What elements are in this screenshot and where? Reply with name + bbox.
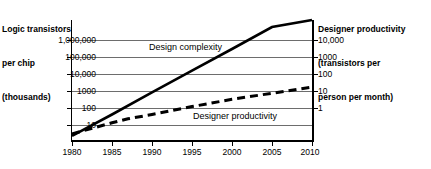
series-label-design-complexity: Design complexity [148,42,223,52]
series-plot [72,20,312,140]
y2-axis-label-100: 100 [318,69,332,79]
x-tick-1985 [112,141,113,146]
y2-axis-label-1000: 1000 [318,52,337,62]
design-productivity-gap-chart: Logic transistors per chip (thousands) D… [0,0,431,169]
y-axis-label-1000000: 1,000,000 [58,35,96,45]
x-tick-2005 [272,141,273,146]
left-axis-title-line-1: Logic transistors [2,24,71,35]
x-axis-label-2000: 2000 [223,147,242,157]
x-axis-label-1985: 1985 [103,147,122,157]
right-axis-title: Designer productivity (transistors per p… [318,2,405,125]
y2-axis-label-10000: 10,000 [318,35,344,45]
x-axis-label-1980: 1980 [63,147,82,157]
x-axis-label-1990: 1990 [143,147,162,157]
left-axis-title-line-2: per chip [2,58,71,69]
left-axis-title-line-3: (thousands) [2,92,71,103]
plot-area: Design complexity Designer productivity [72,20,312,140]
y2-axis-label-1: 1 [318,103,323,113]
y-axis-label-1000: 1000 [77,86,96,96]
x-tick-1980 [72,141,73,146]
right-axis-title-line-3: person per month) [318,92,405,103]
x-axis-label-2010: 2010 [301,147,320,157]
x-axis-label-1995: 1995 [183,147,202,157]
x-axis-label-2005: 2005 [263,147,282,157]
left-axis-title: Logic transistors per chip (thousands) [2,2,71,125]
right-axis-title-line-1: Designer productivity [318,24,405,35]
series-label-designer-productivity: Designer productivity [192,111,278,121]
x-tick-1995 [192,141,193,146]
x-tick-1990 [152,141,153,146]
y-axis-label-10: 10 [87,120,96,130]
y-axis-line-right [312,20,314,140]
x-tick-2010 [312,141,313,146]
x-tick-2000 [232,141,233,146]
y-axis-label-100000: 100,000 [65,52,96,62]
y-axis-label-100: 100 [82,103,96,113]
y2-axis-label-10: 10 [318,86,327,96]
y-axis-label-10000: 10,000 [70,69,96,79]
